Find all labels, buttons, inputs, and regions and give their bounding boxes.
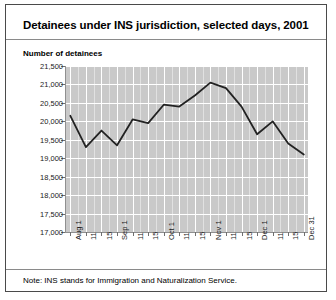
y-tick-label: 17,500 — [40, 209, 63, 218]
x-tick-mark — [164, 232, 165, 236]
x-tick-label: 15 — [105, 232, 114, 240]
x-tick-mark — [133, 232, 134, 236]
y-tick-label: 18,500 — [40, 172, 63, 181]
y-tick-label: 20,500 — [40, 98, 63, 107]
y-axis-title: Number of detainees — [23, 49, 102, 58]
x-tick-mark — [195, 232, 196, 236]
y-tick-label: 19,500 — [40, 135, 63, 144]
y-tick-label: 17,000 — [40, 228, 63, 237]
y-tick-label: 21,000 — [40, 80, 63, 89]
x-tick-mark — [117, 232, 118, 236]
x-tick-label: Nov 1 — [214, 220, 223, 240]
x-tick-mark — [210, 232, 211, 236]
x-tick-mark — [101, 232, 102, 236]
x-tick-label: 15 — [245, 232, 254, 240]
chart-note: Note: INS stands for Immigration and Nat… — [23, 276, 237, 285]
y-tick-label: 18,000 — [40, 191, 63, 200]
x-tick-label: Aug 1 — [74, 220, 83, 240]
x-tick-label: 15 — [151, 232, 160, 240]
x-tick-label: Sep 1 — [120, 220, 129, 240]
x-tick-label: 11 — [229, 232, 238, 240]
data-line-series — [66, 66, 308, 232]
x-tick-mark — [257, 232, 258, 236]
x-tick-label: 15 — [198, 232, 207, 240]
y-tick-label: 19,000 — [40, 154, 63, 163]
figure-panel: Detainees under INS jurisdiction, select… — [5, 4, 327, 292]
y-tick-label: 20,000 — [40, 117, 63, 126]
x-tick-mark — [226, 232, 227, 236]
x-tick-mark — [148, 232, 149, 236]
x-tick-label: Dec 1 — [260, 220, 269, 240]
x-tick-mark — [304, 232, 305, 236]
x-tick-label: 11 — [182, 232, 191, 240]
x-tick-mark — [273, 232, 274, 236]
x-tick-mark — [242, 232, 243, 236]
x-tick-mark — [70, 232, 71, 236]
x-tick-label: 11 — [136, 232, 145, 240]
chart-plot: 17,00017,50018,00018,50019,00019,50020,0… — [19, 61, 315, 237]
x-tick-mark — [288, 232, 289, 236]
note-divider — [6, 269, 326, 270]
x-tick-label: Oct 1 — [167, 222, 176, 240]
title-divider — [6, 39, 326, 40]
x-tick-label: 11 — [276, 232, 285, 240]
x-tick-mark — [86, 232, 87, 236]
x-tick-label: 15 — [291, 232, 300, 240]
y-tick-label: 21,500 — [40, 62, 63, 71]
page-title: Detainees under INS jurisdiction, select… — [23, 19, 309, 31]
x-tick-label: 11 — [89, 232, 98, 240]
x-tick-label: Dec 31 — [307, 216, 316, 240]
x-tick-mark — [179, 232, 180, 236]
